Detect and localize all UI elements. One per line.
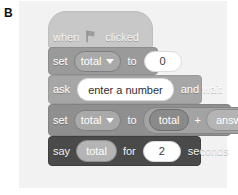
- reporter-answer[interactable]: answer: [206, 109, 238, 131]
- to-label: to: [123, 115, 140, 126]
- and-wait-label: and wait: [177, 84, 226, 95]
- variable-dropdown-value: total: [81, 114, 102, 126]
- block-say-for-seconds[interactable]: say total for 2 seconds: [48, 136, 201, 166]
- variable-dropdown-total[interactable]: total: [74, 51, 122, 72]
- set-value-input[interactable]: 0: [144, 51, 182, 72]
- duration-input[interactable]: 2: [143, 141, 181, 162]
- block-when-flag-clicked[interactable]: when clicked: [48, 11, 153, 49]
- ask-label: ask: [49, 84, 74, 95]
- variable-dropdown-total[interactable]: total: [74, 110, 122, 131]
- set-label: set: [49, 56, 72, 67]
- block-addition-operator[interactable]: total + answer: [143, 107, 238, 134]
- say-label: say: [49, 146, 74, 157]
- script-canvas: when clicked set total to 0: [18, 0, 228, 189]
- figure-panel-b: B when clicked set total: [0, 0, 238, 195]
- reporter-total[interactable]: total: [149, 109, 190, 131]
- reporter-total[interactable]: total: [76, 140, 117, 162]
- to-label: to: [123, 56, 140, 67]
- seconds-label: seconds: [184, 146, 233, 157]
- block-set-variable-sum[interactable]: set total to total + answer: [48, 104, 231, 136]
- ask-prompt-input[interactable]: enter a number: [77, 78, 174, 101]
- set-label: set: [49, 115, 72, 126]
- green-flag-icon: [85, 30, 98, 43]
- when-label: when: [49, 32, 83, 43]
- panel-letter-label: B: [4, 7, 13, 19]
- clicked-label: clicked: [101, 32, 143, 43]
- block-script-stack: when clicked set total to 0: [48, 11, 238, 186]
- variable-dropdown-value: total: [81, 55, 102, 67]
- for-label: for: [119, 146, 140, 157]
- chevron-down-icon: [106, 59, 114, 64]
- chevron-down-icon: [106, 118, 114, 123]
- block-ask-and-wait[interactable]: ask enter a number and wait: [48, 75, 202, 104]
- plus-operator-label: +: [191, 114, 203, 126]
- block-set-variable[interactable]: set total to 0: [48, 47, 158, 75]
